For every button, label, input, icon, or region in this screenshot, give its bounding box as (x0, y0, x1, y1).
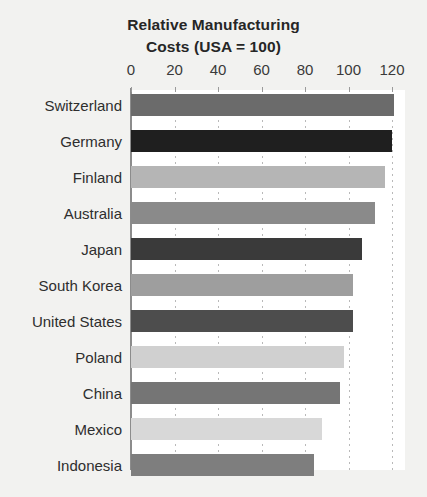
category-label-indonesia: Indonesia (0, 455, 122, 477)
x-tick-mark-100 (349, 87, 350, 92)
bar-row: Japan (0, 238, 427, 274)
bar-finland (131, 166, 385, 188)
x-tick-mark-60 (262, 87, 263, 92)
bar-row: Switzerland (0, 94, 427, 130)
x-tick-mark-40 (218, 87, 219, 92)
x-tick-label-120: 120 (379, 61, 404, 78)
bar-row: Finland (0, 166, 427, 202)
category-label-australia: Australia (0, 203, 122, 225)
category-label-switzerland: Switzerland (0, 95, 122, 117)
x-axis-tick-labels: 020406080100120 (0, 61, 427, 83)
bar-row: Germany (0, 130, 427, 166)
x-tick-label-20: 20 (166, 61, 183, 78)
bar-row: Indonesia (0, 454, 427, 490)
category-label-germany: Germany (0, 131, 122, 153)
bar-australia (131, 202, 375, 224)
x-tick-mark-120 (392, 87, 393, 92)
bar-row: China (0, 382, 427, 418)
bar-mexico (131, 418, 322, 440)
bar-chart: Relative Manufacturing Costs (USA = 100)… (0, 0, 427, 497)
bar-indonesia (131, 454, 314, 476)
bar-south-korea (131, 274, 353, 296)
bar-row: United States (0, 310, 427, 346)
bar-row: Australia (0, 202, 427, 238)
category-label-mexico: Mexico (0, 419, 122, 441)
bar-japan (131, 238, 362, 260)
bar-row: Poland (0, 346, 427, 382)
chart-title-line-2: Costs (USA = 100) (0, 36, 427, 58)
category-label-united-states: United States (0, 311, 122, 333)
x-tick-mark-20 (175, 87, 176, 92)
category-label-china: China (0, 383, 122, 405)
bar-poland (131, 346, 344, 368)
bar-switzerland (131, 94, 394, 116)
bar-row: South Korea (0, 274, 427, 310)
category-label-poland: Poland (0, 347, 122, 369)
chart-title: Relative Manufacturing Costs (USA = 100) (0, 14, 427, 58)
x-tick-label-0: 0 (127, 61, 135, 78)
x-tick-label-60: 60 (253, 61, 270, 78)
chart-title-line-1: Relative Manufacturing (0, 14, 427, 36)
category-label-south-korea: South Korea (0, 275, 122, 297)
bar-united-states (131, 310, 353, 332)
x-tick-label-40: 40 (210, 61, 227, 78)
x-tick-label-100: 100 (336, 61, 361, 78)
bar-row: Mexico (0, 418, 427, 454)
bar-china (131, 382, 340, 404)
x-tick-mark-0 (131, 87, 132, 92)
x-tick-label-80: 80 (297, 61, 314, 78)
x-tick-mark-80 (305, 87, 306, 92)
category-label-japan: Japan (0, 239, 122, 261)
bar-germany (131, 130, 392, 152)
category-label-finland: Finland (0, 167, 122, 189)
